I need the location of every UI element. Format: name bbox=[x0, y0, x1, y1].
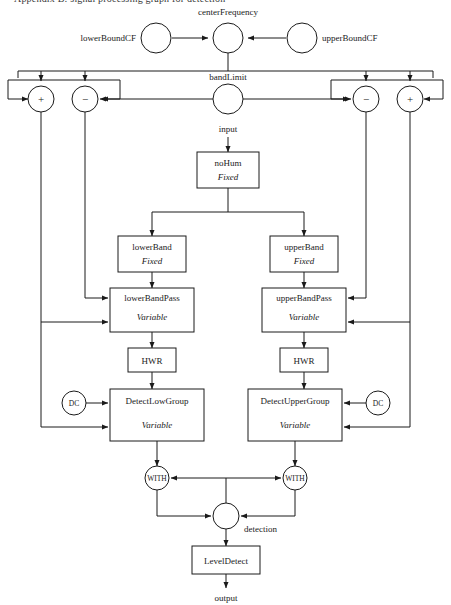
upper-bound-cf-label: upperBoundCF bbox=[322, 33, 378, 43]
lower-bound-cf-label: lowerBoundCF bbox=[80, 33, 136, 43]
edge-right-minus-to-upperbandpass bbox=[348, 112, 366, 298]
edge-with-right-to-detection bbox=[241, 490, 295, 516]
edge-with-left-to-detection bbox=[157, 490, 211, 516]
upper-bound-cf-node[interactable] bbox=[287, 23, 317, 53]
block-detect-upper-group-subtitle: Variable bbox=[280, 420, 311, 430]
block-detect-upper-group-title: DetectUpperGroup bbox=[261, 396, 330, 406]
detection-node[interactable] bbox=[213, 503, 239, 529]
lower-bound-cf-node[interactable] bbox=[141, 23, 171, 53]
output-label: output bbox=[214, 593, 238, 603]
right-plus-glyph: + bbox=[407, 93, 413, 105]
block-lower-band-pass-title: lowerBandPass bbox=[124, 293, 180, 303]
dc-right-label: DC bbox=[373, 399, 383, 408]
with-right-label: WITH bbox=[285, 474, 305, 483]
edge-right-plus-to-upperbandpass bbox=[348, 112, 410, 322]
signal-flow-diagram: Appendix B: signal processing graph for … bbox=[0, 0, 451, 605]
left-plus-glyph: + bbox=[38, 93, 44, 105]
edge-left-operator-feedback bbox=[8, 80, 120, 99]
edge-right-operator-feedback bbox=[331, 80, 443, 99]
detection-label: detection bbox=[244, 524, 277, 534]
dc-left-label: DC bbox=[69, 399, 79, 408]
block-nohum-subtitle: Fixed bbox=[217, 172, 239, 182]
input-label: input bbox=[219, 124, 238, 134]
block-upper-band-pass-subtitle: Variable bbox=[289, 312, 320, 322]
center-frequency-label: centerFrequency bbox=[198, 7, 258, 17]
block-hwr-right-title: HWR bbox=[294, 356, 315, 366]
block-lower-band-subtitle: Fixed bbox=[141, 256, 163, 266]
block-upper-band-pass-title: upperBandPass bbox=[276, 293, 332, 303]
block-level-detect-title: LevelDetect bbox=[204, 556, 248, 566]
block-lower-band-pass-subtitle: Variable bbox=[137, 312, 168, 322]
with-left-label: WITH bbox=[147, 474, 167, 483]
diagram-canvas: lowerBoundCF upperBoundCF centerFrequenc… bbox=[0, 0, 451, 605]
block-hwr-left-title: HWR bbox=[142, 356, 163, 366]
block-upper-band-subtitle: Fixed bbox=[293, 256, 315, 266]
band-limit-label: bandLimit bbox=[209, 72, 247, 82]
center-frequency-node[interactable] bbox=[213, 23, 243, 53]
block-nohum-title: noHum bbox=[215, 158, 242, 168]
left-minus-glyph: − bbox=[82, 93, 88, 105]
edge-nohum-split bbox=[152, 188, 304, 236]
edge-left-plus-to-lowerbandpass bbox=[41, 112, 108, 322]
block-lower-band-title: lowerBand bbox=[132, 242, 172, 252]
block-detect-low-group-title: DetectLowGroup bbox=[126, 396, 189, 406]
right-minus-glyph: − bbox=[363, 93, 369, 105]
edge-left-minus-to-lowerbandpass bbox=[85, 112, 108, 298]
band-limit-node[interactable] bbox=[213, 84, 243, 114]
block-upper-band-title: upperBand bbox=[284, 242, 324, 252]
block-detect-low-group-subtitle: Variable bbox=[142, 420, 173, 430]
